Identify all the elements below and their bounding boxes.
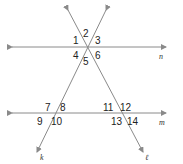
label-m: m xyxy=(159,118,165,127)
angle-6: 6 xyxy=(95,50,101,61)
angle-5: 5 xyxy=(83,56,89,67)
angle-2: 2 xyxy=(83,28,89,39)
angle-10: 10 xyxy=(51,116,63,127)
angle-9: 9 xyxy=(37,116,43,127)
angle-13: 13 xyxy=(111,116,123,127)
label-k: k xyxy=(40,153,44,162)
label-n: n xyxy=(159,52,163,61)
angle-8: 8 xyxy=(60,102,66,113)
line-l xyxy=(68,10,143,152)
angle-1: 1 xyxy=(73,35,79,46)
label-l: ℓ xyxy=(145,153,149,162)
angle-14: 14 xyxy=(127,116,139,127)
angle-11: 11 xyxy=(103,102,114,113)
line-k xyxy=(37,10,106,152)
angle-3: 3 xyxy=(95,35,101,46)
angle-12: 12 xyxy=(120,102,132,113)
angle-7: 7 xyxy=(45,102,51,113)
angles-diagram: 1 2 3 4 5 6 7 8 9 10 11 12 13 14 n m k ℓ xyxy=(0,0,183,164)
angle-4: 4 xyxy=(73,50,79,61)
